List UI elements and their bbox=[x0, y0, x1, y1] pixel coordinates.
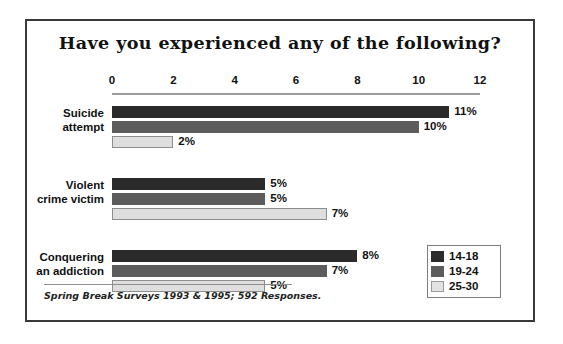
legend: 14-18 19-24 25-30 bbox=[427, 245, 501, 298]
x-axis-tick-label: 2 bbox=[170, 74, 176, 87]
legend-item: 14-18 bbox=[431, 249, 496, 263]
legend-item: 25-30 bbox=[431, 279, 496, 293]
x-axis-tick-label: 10 bbox=[412, 74, 425, 87]
bar-row: 10% bbox=[112, 121, 480, 133]
bar-row: 11% bbox=[112, 106, 480, 118]
x-axis-tick-label: 0 bbox=[109, 74, 115, 87]
footnote: Spring Break Surveys 1993 & 1995; 592 Re… bbox=[44, 290, 321, 301]
bar bbox=[112, 106, 449, 118]
category-label: Violentcrime victim bbox=[0, 178, 104, 206]
chart-title: Have you experienced any of the followin… bbox=[27, 33, 533, 53]
legend-label: 14-18 bbox=[449, 250, 478, 263]
x-axis-tick-label: 4 bbox=[231, 74, 237, 87]
x-axis-tick-label: 6 bbox=[293, 74, 299, 87]
bar-group: Suicideattempt11%10%2% bbox=[112, 106, 480, 151]
bar-value-label: 8% bbox=[362, 249, 379, 262]
x-axis-line bbox=[112, 93, 480, 95]
bar bbox=[112, 121, 419, 133]
bar-value-label: 7% bbox=[332, 264, 349, 277]
bar-row: 8% bbox=[112, 250, 480, 262]
bar bbox=[112, 208, 327, 220]
bar-value-label: 10% bbox=[424, 120, 447, 133]
category-label: Conqueringan addiction bbox=[0, 250, 104, 278]
bar bbox=[112, 193, 265, 205]
legend-swatch-icon bbox=[431, 281, 444, 292]
bar-value-label: 5% bbox=[270, 192, 287, 205]
bar-value-label: 2% bbox=[178, 135, 195, 148]
chart-frame: Have you experienced any of the followin… bbox=[25, 19, 535, 322]
legend-swatch-icon bbox=[431, 251, 444, 262]
bar bbox=[112, 136, 173, 148]
legend-swatch-icon bbox=[431, 266, 444, 277]
bar-group: Conqueringan addiction8%7%5% bbox=[112, 250, 480, 295]
bar bbox=[112, 265, 327, 277]
bar-value-label: 5% bbox=[270, 177, 287, 190]
bar-row: 7% bbox=[112, 208, 480, 220]
bar bbox=[112, 250, 357, 262]
bar-value-label: 11% bbox=[454, 105, 476, 118]
category-label: Suicideattempt bbox=[0, 106, 104, 134]
bar-row: 7% bbox=[112, 265, 480, 277]
plot-area: 024681012 Suicideattempt11%10%2%Violentc… bbox=[112, 74, 480, 304]
legend-label: 19-24 bbox=[449, 265, 478, 278]
bar-row: 2% bbox=[112, 136, 480, 148]
bar-group: Violentcrime victim5%5%7% bbox=[112, 178, 480, 223]
footnote-divider bbox=[44, 284, 292, 285]
bar-value-label: 7% bbox=[332, 207, 349, 220]
x-axis-tick-label: 12 bbox=[474, 74, 487, 87]
x-axis-tick-label: 8 bbox=[354, 74, 360, 87]
bar bbox=[112, 178, 265, 190]
bar-row: 5% bbox=[112, 178, 480, 190]
legend-item: 19-24 bbox=[431, 264, 496, 278]
legend-label: 25-30 bbox=[449, 280, 478, 293]
bar-row: 5% bbox=[112, 193, 480, 205]
